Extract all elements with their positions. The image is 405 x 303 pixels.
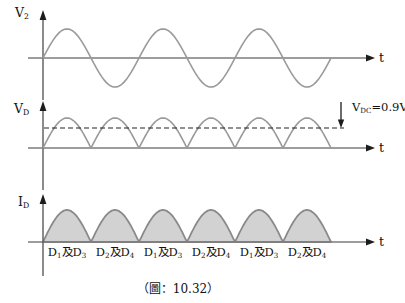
vd-time-label: t [379, 142, 384, 155]
conducting-diodes-label-2: D2及D4 [91, 246, 139, 260]
vdc-annotation: VDC=0.9V2 [352, 102, 405, 114]
v2-vertical-axis-up-arrowhead-icon [40, 10, 47, 20]
conducting-diodes-label-6: D2及D4 [283, 246, 331, 260]
vdc-pointer-down-arrowhead-icon [338, 120, 344, 129]
v2-axis-label: V2 [15, 7, 29, 21]
vd-time-axis-right-arrowhead-icon [366, 145, 375, 152]
id-time-label: t [379, 236, 384, 249]
vd-axis-label: VD [14, 103, 29, 117]
id-axis-label-subscript: D [23, 201, 29, 210]
conducting-diodes-label-3: D1及D3 [139, 246, 187, 260]
id-shaded-current-humps [43, 210, 331, 242]
id-vertical-axis-up-arrowhead-icon [40, 194, 47, 204]
id-time-axis-right-arrowhead-icon [366, 239, 375, 246]
vdc-annotation-subscript-dc: DC [360, 106, 371, 115]
conducting-diodes-label-4: D2及D4 [187, 246, 235, 260]
rectifier-waveform-figure: V2 VD ID t t t VDC=0.9V2 D1及D3 D2及D4 D1及… [0, 0, 405, 303]
vd-axis-label-base: V [14, 101, 23, 116]
v2-time-axis-right-arrowhead-icon [366, 55, 375, 62]
conducting-diodes-label-1: D1及D3 [43, 246, 91, 260]
v2-axis-label-subscript: 2 [24, 12, 29, 21]
id-axis-label: ID [18, 196, 29, 210]
v2-axis-label-base: V [15, 5, 24, 20]
vd-vertical-axis-up-arrowhead-icon [40, 101, 47, 111]
conducting-diodes-label-5: D1及D3 [235, 246, 283, 260]
vd-rectified-wave [43, 118, 331, 148]
vdc-annotation-value: =0.9V [371, 100, 405, 114]
figure-caption: （圖：10.32） [92, 282, 264, 298]
vd-axis-label-subscript: D [23, 108, 29, 117]
v2-time-label: t [379, 52, 384, 65]
